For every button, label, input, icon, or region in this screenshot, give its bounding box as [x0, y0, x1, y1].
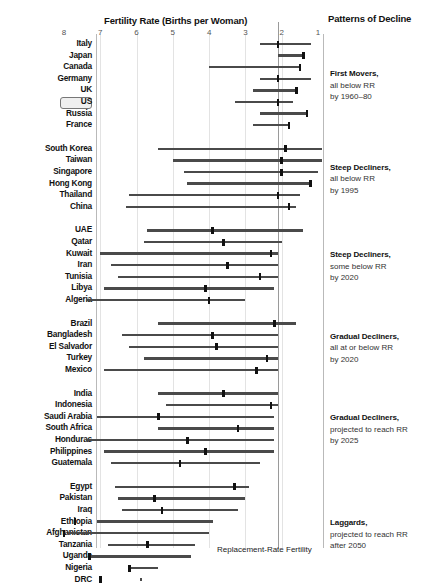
- range-bar: [111, 264, 278, 266]
- current-value-marker: [277, 75, 280, 82]
- range-bar: [158, 427, 274, 429]
- current-value-marker: [179, 460, 182, 467]
- current-value-marker: [153, 495, 156, 502]
- current-value-marker: [208, 297, 211, 304]
- range-bar: [158, 392, 278, 394]
- country-label-libya: Libya: [71, 283, 92, 292]
- range-bar: [97, 416, 275, 418]
- country-label-germany: Germany: [57, 74, 92, 83]
- range-bar: [115, 486, 249, 488]
- pattern-detail-1: all below RR: [330, 173, 391, 185]
- country-label-south-korea: South Korea: [45, 144, 92, 153]
- gridline-3: [245, 34, 246, 548]
- range-bar: [122, 509, 238, 511]
- country-label-thailand: Thailand: [59, 190, 92, 199]
- current-value-marker: [309, 180, 312, 187]
- pattern-name: Laggards,: [330, 517, 408, 529]
- current-value-marker: [284, 145, 287, 152]
- current-value-marker: [222, 239, 225, 246]
- x-tick-4: 4: [207, 28, 211, 37]
- country-label-philippines: Philippines: [50, 447, 92, 456]
- country-label-hong-kong: Hong Kong: [49, 179, 92, 188]
- pattern-annotation-2: Steep Decliners,some below RRby 2020: [330, 249, 391, 284]
- current-value-marker: [255, 367, 258, 374]
- range-bar: [129, 346, 278, 348]
- range-bar: [166, 404, 278, 406]
- range-bar: [209, 66, 300, 68]
- plot-area: [96, 34, 324, 548]
- country-label-japan: Japan: [69, 51, 92, 60]
- country-label-indonesia: Indonesia: [55, 400, 92, 409]
- current-value-marker: [99, 576, 102, 583]
- current-value-marker: [277, 99, 280, 106]
- range-bar: [158, 148, 321, 150]
- current-value-marker: [306, 110, 309, 117]
- range-bar: [89, 555, 191, 557]
- country-label-drc: DRC: [75, 575, 92, 584]
- pattern-name: Steep Decliners,: [330, 162, 391, 174]
- x-tick-6: 6: [134, 28, 138, 37]
- gridline-6: [137, 34, 138, 548]
- current-value-marker: [146, 541, 149, 548]
- range-bar: [147, 229, 303, 231]
- range-bar: [184, 171, 318, 173]
- pattern-annotation-3: Gradual Decliners,all at or below RRby 2…: [330, 331, 399, 366]
- pattern-detail-1: all at or below RR: [330, 342, 399, 354]
- pattern-detail-2: by 1960–80: [330, 91, 379, 103]
- pattern-annotation-4: Gradual Decliners,projected to reach RRb…: [330, 412, 408, 447]
- gridline-4: [209, 34, 210, 548]
- current-value-marker: [161, 507, 164, 514]
- country-label-china: China: [70, 202, 92, 211]
- country-label-el-salvador: El Salvador: [49, 342, 92, 351]
- pattern-detail-2: after 2050: [330, 540, 408, 552]
- country-label-brazil: Brazil: [71, 319, 92, 328]
- pattern-name: Gradual Decliners,: [330, 331, 399, 343]
- country-label-kuwait: Kuwait: [66, 249, 92, 258]
- range-bar: [122, 334, 278, 336]
- x-tick-2: 2: [279, 28, 283, 37]
- current-value-marker: [215, 343, 218, 350]
- current-value-marker: [259, 273, 262, 280]
- range-bar: [86, 439, 275, 441]
- current-value-marker: [74, 518, 77, 525]
- range-bar: [187, 182, 310, 184]
- current-value-marker: [288, 203, 291, 210]
- current-value-marker: [280, 157, 283, 164]
- country-label-iran: Iran: [78, 260, 92, 269]
- pattern-detail-1: some below RR: [330, 261, 391, 273]
- country-label-france: France: [66, 120, 92, 129]
- range-bar: [118, 497, 245, 499]
- country-label-russia: Russia: [66, 109, 92, 118]
- current-value-marker: [204, 448, 207, 455]
- range-bar: [144, 357, 278, 359]
- current-value-marker: [280, 169, 283, 176]
- range-bar: [260, 112, 307, 114]
- country-label-turkey: Turkey: [67, 353, 92, 362]
- country-label-egypt: Egypt: [70, 482, 92, 491]
- pattern-detail-1: all below RR: [330, 80, 379, 92]
- current-value-marker: [266, 355, 269, 362]
- country-label-mexico: Mexico: [65, 365, 92, 374]
- country-label-tunisia: Tunisia: [65, 272, 92, 281]
- current-value-marker: [277, 192, 280, 199]
- x-tick-7: 7: [98, 28, 102, 37]
- pattern-annotation-5: Laggards,projected to reach RRafter 2050: [330, 517, 408, 552]
- country-label-south-africa: South Africa: [45, 423, 92, 432]
- country-label-canada: Canada: [63, 62, 92, 71]
- country-label-column: ItalyJapanCanadaGermanyUKUSRussiaFranceS…: [0, 0, 92, 567]
- range-bar: [253, 89, 297, 91]
- x-tick-1: 1: [316, 28, 320, 37]
- patterns-column-title: Patterns of Decline: [328, 13, 411, 24]
- chart-title: Fertility Rate (Births per Woman): [104, 15, 247, 26]
- range-bar: [100, 252, 278, 254]
- current-value-marker: [277, 41, 280, 48]
- range-bar: [253, 124, 289, 126]
- range-bar: [97, 520, 213, 522]
- current-value-marker: [157, 413, 160, 420]
- current-value-marker: [302, 52, 305, 59]
- range-bar: [129, 194, 300, 196]
- range-bar: [260, 43, 311, 45]
- current-value-marker: [128, 565, 131, 572]
- current-value-marker: [270, 250, 273, 257]
- country-label-uk: UK: [80, 85, 92, 94]
